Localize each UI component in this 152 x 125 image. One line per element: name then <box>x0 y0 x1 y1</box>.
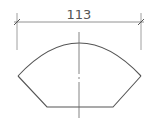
dimension-label: 113 <box>67 7 92 22</box>
technical-drawing: 113 <box>0 0 152 125</box>
shape-arc-top <box>18 43 141 76</box>
shape-lower-outline <box>18 76 141 107</box>
